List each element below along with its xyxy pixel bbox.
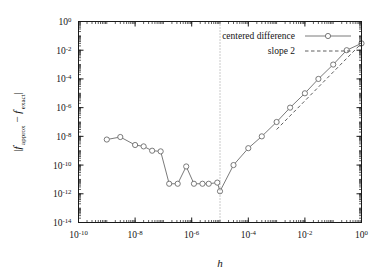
y-label-close: | xyxy=(11,92,23,94)
tick-exponent: -14 xyxy=(62,217,72,224)
data-point-marker xyxy=(175,181,180,186)
data-point-marker xyxy=(104,137,109,142)
legend-label: centered difference xyxy=(222,31,295,41)
tick-mantissa: 10 xyxy=(56,103,66,113)
tick-mantissa: 10 xyxy=(184,230,194,240)
data-point-marker xyxy=(133,142,138,147)
data-point-marker xyxy=(150,148,155,153)
tick-mantissa: 10 xyxy=(59,17,69,27)
tick-exponent: -4 xyxy=(250,228,256,235)
data-point-marker xyxy=(288,105,293,110)
data-point-marker xyxy=(259,134,264,139)
data-point-marker xyxy=(331,62,336,67)
tick-exponent: 0 xyxy=(68,16,72,23)
data-point-marker xyxy=(274,119,279,124)
data-point-marker xyxy=(246,146,251,151)
tick-mantissa: 10 xyxy=(56,46,66,56)
data-point-marker xyxy=(158,149,163,154)
tick-mantissa: 10 xyxy=(53,161,63,171)
tick-exponent: -4 xyxy=(66,73,72,80)
tick-exponent: -10 xyxy=(79,228,89,235)
tick-mantissa: 10 xyxy=(56,74,66,84)
tick-exponent: -12 xyxy=(62,188,72,195)
x-axis-label: h xyxy=(217,257,223,269)
tick-mantissa: 10 xyxy=(297,230,307,240)
tick-exponent: 0 xyxy=(365,228,369,235)
y-label-minus: − xyxy=(11,114,23,126)
data-point-marker xyxy=(344,48,349,53)
tick-exponent: -8 xyxy=(66,130,72,137)
data-point-marker xyxy=(215,180,220,185)
data-point-marker xyxy=(184,164,189,169)
data-point-marker xyxy=(118,134,123,139)
tick-mantissa: 10 xyxy=(53,189,63,199)
legend-swatch-marker xyxy=(325,33,330,38)
tick-mantissa: 10 xyxy=(128,230,138,240)
data-point-marker xyxy=(206,181,211,186)
figure-container: 10-1010-810-610-410-210010010-210-410-61… xyxy=(0,0,390,279)
tick-mantissa: 10 xyxy=(69,230,79,240)
x-axis-label-text: h xyxy=(217,257,223,269)
tick-exponent: -6 xyxy=(194,228,200,235)
tick-exponent: -8 xyxy=(137,228,143,235)
log-log-error-plot: 10-1010-810-610-410-210010010-210-410-61… xyxy=(0,0,390,279)
y-label-sub2: exact xyxy=(19,94,27,109)
data-point-marker xyxy=(316,76,321,81)
data-point-marker xyxy=(141,144,146,149)
data-point-marker xyxy=(302,91,307,96)
tick-mantissa: 10 xyxy=(53,218,63,228)
tick-mantissa: 10 xyxy=(56,132,66,142)
tick-exponent: -2 xyxy=(307,228,313,235)
tick-exponent: -10 xyxy=(62,159,72,166)
tick-mantissa: 10 xyxy=(241,230,251,240)
data-point-marker xyxy=(191,181,196,186)
tick-exponent: -2 xyxy=(66,44,72,51)
y-label-sub1: approx xyxy=(19,125,27,145)
legend-label: slope 2 xyxy=(268,46,295,56)
tick-mantissa: 10 xyxy=(355,230,365,240)
tick-exponent: -6 xyxy=(66,102,72,109)
data-point-marker xyxy=(231,162,236,167)
data-point-marker xyxy=(200,181,205,186)
data-point-marker xyxy=(167,181,172,186)
